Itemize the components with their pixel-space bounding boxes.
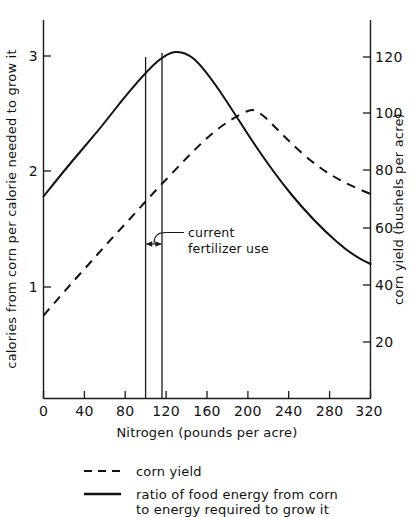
x-tick-label-200: 200 — [234, 403, 262, 419]
chart-figure: 0 40 80 120 160 200 240 280 320 3 2 1 — [0, 0, 417, 517]
left-axis-ticks — [44, 56, 52, 287]
x-axis-ticks — [44, 391, 371, 399]
axes-frame — [44, 20, 371, 399]
right-axis-ticks — [363, 57, 371, 342]
fertilizer-arrow-head-left — [146, 241, 152, 246]
right-axis-title: corn yield (bushels per acre) — [391, 113, 406, 305]
left-tick-label-3: 3 — [29, 48, 38, 64]
legend-label-energy-ratio-line1: ratio of food energy from corn — [136, 487, 338, 502]
legend-label-energy-ratio-line2: to energy required to grow it — [136, 502, 329, 517]
left-tick-label-1: 1 — [29, 279, 38, 295]
fertilizer-annotation-line1: current — [188, 225, 235, 240]
x-tick-label-320: 320 — [355, 403, 383, 419]
fertilizer-annotation-line2: fertilizer use — [188, 241, 269, 256]
legend-label-corn-yield: corn yield — [136, 464, 202, 479]
x-tick-label-240: 240 — [275, 403, 303, 419]
x-tick-label-120: 120 — [152, 403, 180, 419]
x-tick-label-280: 280 — [316, 403, 344, 419]
x-axis-tick-labels: 0 40 80 120 160 200 240 280 320 — [39, 403, 383, 419]
left-axis-title: calories from corn per calorie needed to… — [4, 49, 19, 368]
chart-svg: 0 40 80 120 160 200 240 280 320 3 2 1 — [0, 0, 417, 517]
left-axis-tick-labels: 3 2 1 — [29, 48, 38, 295]
left-tick-label-2: 2 — [29, 163, 38, 179]
x-axis-title: Nitrogen (pounds per acre) — [116, 425, 297, 440]
current-fertilizer-use-annotation: current fertilizer use — [146, 53, 269, 399]
x-tick-label-0: 0 — [39, 403, 48, 419]
x-tick-label-40: 40 — [75, 403, 93, 419]
right-tick-label-20: 20 — [375, 334, 393, 350]
series-corn-yield — [44, 110, 371, 316]
fertilizer-leader-line — [154, 233, 184, 244]
chart-legend: corn yield ratio of food energy from cor… — [84, 464, 338, 517]
x-tick-label-160: 160 — [193, 403, 221, 419]
fertilizer-arrow-head-right — [155, 241, 161, 246]
right-tick-label-120: 120 — [375, 49, 403, 65]
x-tick-label-80: 80 — [116, 403, 134, 419]
